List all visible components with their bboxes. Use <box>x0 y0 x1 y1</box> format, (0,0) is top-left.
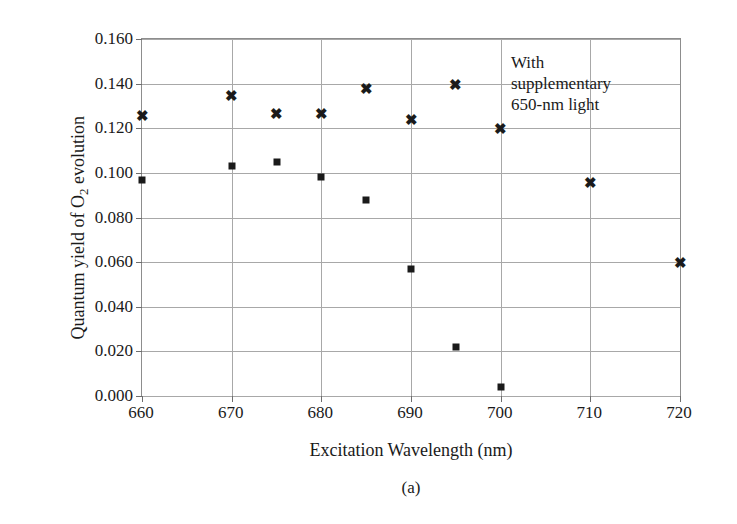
x-axis-tick <box>590 396 591 402</box>
y-axis-tick-label: 0.160 <box>63 30 133 47</box>
x-axis-tick <box>501 396 502 402</box>
y-axis-tick <box>136 173 142 174</box>
y-axis-title: Quantum yield of O2 evolution <box>68 58 92 398</box>
x-axis-tick-label: 680 <box>280 404 360 421</box>
x-axis-tick-labels: 660670680690700710720 <box>141 404 681 428</box>
y-axis-tick <box>136 351 142 352</box>
y-axis-tick <box>136 39 142 40</box>
y-axis-tick <box>136 84 142 85</box>
data-point-square <box>273 158 280 165</box>
x-axis-title: Excitation Wavelength (nm) <box>141 440 681 461</box>
y-axis-tick <box>136 262 142 263</box>
data-point-cross: ✖ <box>136 108 149 121</box>
y-axis-tick <box>136 307 142 308</box>
x-axis-tick-label: 670 <box>191 404 271 421</box>
y-axis-tick-labels: 0.0000.0200.0400.0600.0800.1000.1200.140… <box>55 38 133 397</box>
gridline-vertical <box>321 39 322 396</box>
figure-quantum-yield: ✖✖✖✖✖✖✖✖✖✖ 0.0000.0200.0400.0600.0800.10… <box>0 0 737 524</box>
x-axis-tick-label: 690 <box>370 404 450 421</box>
gridline-vertical <box>501 39 502 396</box>
data-point-cross: ✖ <box>270 106 283 119</box>
x-axis-tick <box>232 396 233 402</box>
x-axis-tick-label: 700 <box>460 404 540 421</box>
data-point-square <box>363 196 370 203</box>
x-axis-tick-label: 660 <box>101 404 181 421</box>
x-axis-tick <box>142 396 143 402</box>
x-axis-tick <box>321 396 322 402</box>
x-axis-tick <box>411 396 412 402</box>
x-axis-tick <box>680 396 681 402</box>
x-axis-tick-label: 710 <box>549 404 629 421</box>
data-point-square <box>139 176 146 183</box>
y-axis-title-subscript: 2 <box>76 189 91 195</box>
figure-caption: (a) <box>141 478 681 498</box>
y-axis-tick <box>136 128 142 129</box>
y-axis-title-wrapper: Quantum yield of O2 evolution <box>40 38 41 397</box>
gridline-vertical <box>411 39 412 396</box>
y-axis-tick <box>136 218 142 219</box>
gridline-vertical <box>232 39 233 396</box>
x-axis-tick-label: 720 <box>639 404 719 421</box>
data-point-square <box>452 343 459 350</box>
chart-annotation: With supplementary 650-nm light <box>511 52 661 115</box>
